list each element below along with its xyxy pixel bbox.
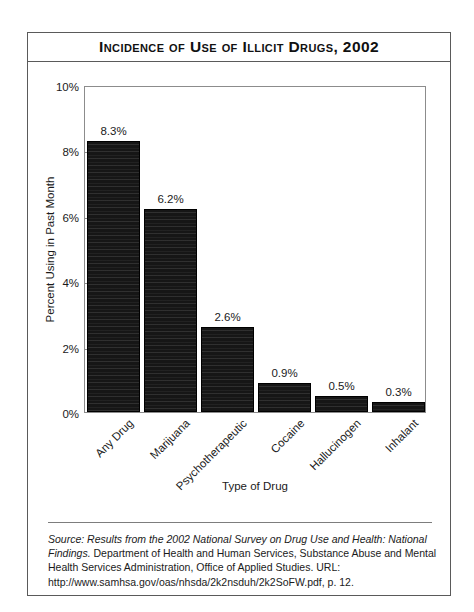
y-axis-tick-label: 0% — [62, 408, 79, 420]
bar: 6.2% — [144, 209, 197, 412]
y-axis-title: Percent Using in Past Month — [44, 86, 60, 413]
source-divider — [48, 522, 432, 523]
x-axis-category-label: Inhalant — [382, 417, 419, 454]
x-axis-category-label: Any Drug — [93, 417, 135, 459]
bar-value-label: 0.3% — [385, 386, 411, 398]
x-axis-category-label: Hallucinogen — [307, 417, 363, 473]
bar-value-label: 6.2% — [157, 193, 183, 205]
bar-value-label: 0.5% — [328, 380, 354, 392]
y-axis-tick-label: 6% — [62, 212, 79, 224]
bar: 0.9% — [258, 383, 311, 412]
plot-area: 0%2%4%6%8%10%8.3%6.2%2.6%0.9%0.5%0.3% — [84, 86, 426, 413]
source-note: Source: Results from the 2002 National S… — [48, 532, 438, 589]
figure-panel: Incidence of Use of Illicit Drugs, 2002 … — [27, 32, 451, 596]
bar: 0.3% — [372, 402, 425, 412]
x-axis-title: Type of Drug — [84, 480, 426, 492]
title-band: Incidence of Use of Illicit Drugs, 2002 — [28, 33, 450, 62]
bar: 2.6% — [201, 327, 254, 412]
y-axis-tick-label: 8% — [62, 146, 79, 158]
y-axis-tick-label: 4% — [62, 277, 79, 289]
bar-value-label: 2.6% — [214, 311, 240, 323]
y-axis-tick-label: 10% — [56, 81, 79, 93]
chart-title: Incidence of Use of Illicit Drugs, 2002 — [99, 38, 379, 56]
source-rest-text: Department of Health and Human Services,… — [48, 547, 436, 587]
bar: 0.5% — [315, 396, 368, 412]
bar-value-label: 8.3% — [100, 125, 126, 137]
bar-value-label: 0.9% — [271, 367, 297, 379]
bar: 8.3% — [87, 141, 140, 412]
x-axis-category-label: Cocaine — [268, 417, 306, 455]
y-axis-tick-label: 2% — [62, 343, 79, 355]
x-axis-category-label: Marijuana — [147, 417, 191, 461]
